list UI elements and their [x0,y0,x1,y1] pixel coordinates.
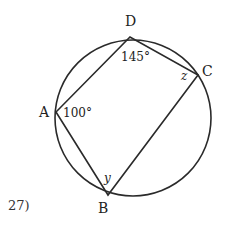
vertex-label-b: B [98,201,108,215]
vertex-label-c: C [202,64,213,78]
vertex-label-a: A [39,105,49,119]
vertex-label-d: D [125,14,136,28]
angle-label-a: 100° [63,107,92,119]
diagram-canvas [0,0,226,230]
angle-label-b: y [104,172,111,184]
angle-label-c: z [181,70,187,82]
angle-label-d: 145° [121,51,150,63]
problem-number: 27) [8,199,30,212]
